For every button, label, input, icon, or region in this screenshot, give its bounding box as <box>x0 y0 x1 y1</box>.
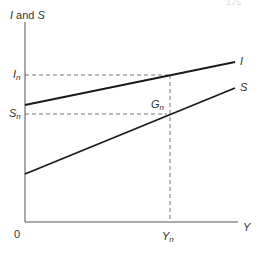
y-label-S: S <box>38 9 45 21</box>
x-axis-label: Y <box>243 222 250 233</box>
savings-line <box>25 88 235 174</box>
savings-curve-label: S <box>240 82 247 93</box>
Sn-sub: n <box>16 112 20 121</box>
investment-line <box>25 62 235 105</box>
Sn-label: Sn <box>9 108 21 120</box>
In-label: In <box>13 69 21 81</box>
Gn-label: Gn <box>151 99 164 111</box>
is-diagram <box>0 0 258 266</box>
Gn-sub: n <box>160 103 164 112</box>
Gn-base: G <box>151 98 160 110</box>
Yn-label: Yn <box>162 231 174 243</box>
y-axis-label: I and S <box>10 10 45 21</box>
Yn-sub: n <box>169 235 173 244</box>
y-label-and: and <box>13 9 37 21</box>
origin-label: 0 <box>14 229 20 240</box>
investment-curve-label: I <box>240 56 243 67</box>
In-sub: n <box>16 73 20 82</box>
